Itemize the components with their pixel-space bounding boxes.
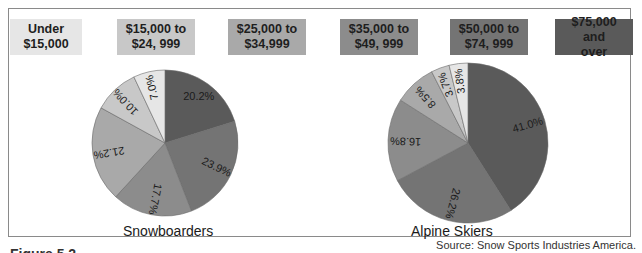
slice-label: 16.8%: [390, 135, 422, 148]
pie-charts: 20.2%23.9%17.7%21.2%10.0%7.0%41.0%26.2%1…: [0, 0, 642, 253]
source-note: Source: Snow Sports Industries America.: [436, 239, 636, 251]
slice-label: 20.2%: [183, 90, 214, 102]
figure-label: Figure 5.2: [10, 246, 76, 253]
pie-title-alpine-skiers: Alpine Skiers: [411, 223, 493, 239]
pie-title-snowboarders: Snowboarders: [123, 223, 213, 239]
